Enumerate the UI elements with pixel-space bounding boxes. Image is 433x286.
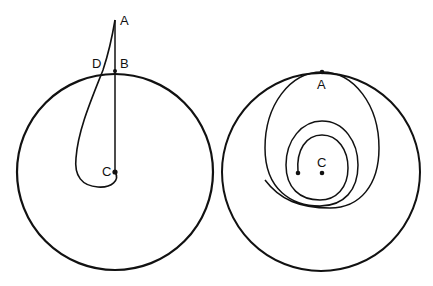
label-C-right: C [317, 156, 326, 169]
diagram-canvas: A B D C A C [0, 0, 433, 286]
label-C-left: C [102, 165, 111, 178]
point-B [113, 69, 117, 73]
diagram-svg [0, 0, 433, 286]
label-A-left: A [120, 14, 129, 27]
label-D: D [92, 57, 101, 70]
point-A-right [320, 70, 325, 75]
label-A-right: A [317, 78, 326, 91]
loop-curve-CDA [76, 20, 117, 187]
point-C-right [320, 171, 325, 176]
point-C-left [112, 169, 117, 174]
label-B: B [120, 57, 129, 70]
spiral-curve [265, 72, 379, 208]
spiral-start-point [296, 171, 301, 176]
left-panel [17, 20, 213, 270]
